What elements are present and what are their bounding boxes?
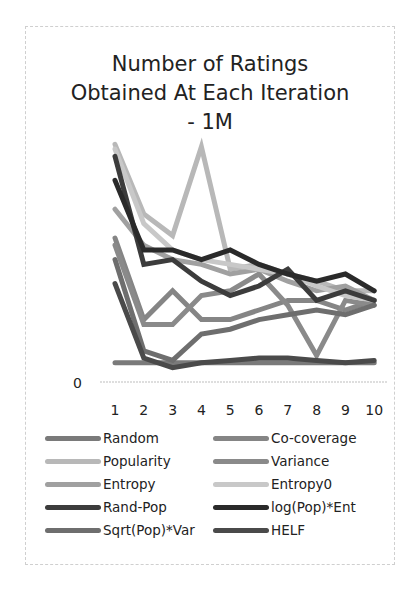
legend-item: HELF (213, 520, 385, 540)
x-tick-label: 4 (197, 402, 206, 418)
x-tick-label: 2 (139, 402, 148, 418)
x-tick-label: 6 (255, 402, 264, 418)
series-lines (115, 144, 374, 367)
legend-item: Entropy0 (213, 474, 385, 494)
x-tick-label: 7 (283, 402, 292, 418)
legend-swatch-icon (213, 436, 269, 441)
legend-swatch-icon (45, 505, 101, 510)
legend-swatch-icon (213, 459, 269, 464)
x-tick-label: 9 (341, 402, 350, 418)
legend-label: Sqrt(Pop)*Var (103, 522, 195, 538)
legend-swatch-icon (45, 436, 101, 441)
legend-label: Rand-Pop (103, 499, 167, 515)
legend-swatch-icon (213, 528, 269, 533)
x-tick-label: 5 (226, 402, 235, 418)
legend-label: Variance (271, 453, 329, 469)
legend-item: log(Pop)*Ent (213, 497, 385, 517)
legend-label: HELF (271, 522, 305, 538)
legend-label: log(Pop)*Ent (271, 499, 356, 515)
legend-item: Variance (213, 451, 385, 471)
legend-label: Co-coverage (271, 430, 356, 446)
legend: Random Co-coverage Popularity Variance E… (45, 428, 385, 540)
legend-swatch-icon (213, 482, 269, 487)
x-tick-label: 1 (111, 402, 120, 418)
legend-swatch-icon (45, 482, 101, 487)
x-tick-label: 10 (365, 402, 383, 418)
legend-item: Entropy (45, 474, 213, 494)
x-tick-label: 8 (312, 402, 321, 418)
legend-label: Random (103, 430, 159, 446)
legend-item: Popularity (45, 451, 213, 471)
legend-item: Random (45, 428, 213, 448)
legend-item: Sqrt(Pop)*Var (45, 520, 213, 540)
legend-swatch-icon (45, 528, 101, 533)
y-tick-label: 0 (73, 375, 82, 391)
legend-item: Rand-Pop (45, 497, 213, 517)
legend-label: Entropy (103, 476, 155, 492)
legend-item: Co-coverage (213, 428, 385, 448)
x-tick-labels: 12345678910 (111, 402, 384, 418)
legend-label: Popularity (103, 453, 171, 469)
x-tick-label: 3 (168, 402, 177, 418)
legend-label: Entropy0 (271, 476, 332, 492)
legend-swatch-icon (45, 459, 101, 464)
legend-swatch-icon (213, 505, 269, 510)
